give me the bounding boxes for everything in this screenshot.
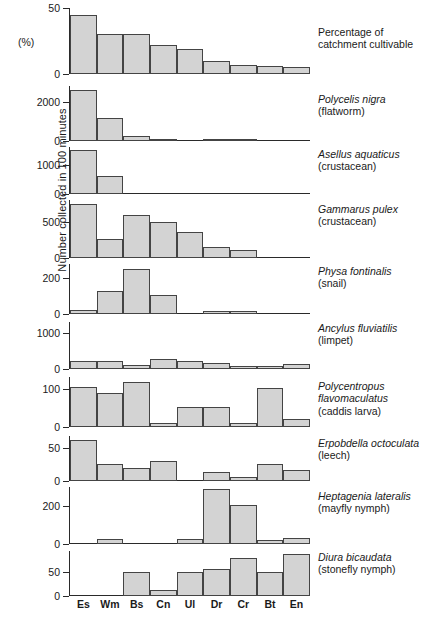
y-axis-tick-label: 0 [10,69,60,80]
bar-slot-Bs [123,365,150,369]
bar-Bt [257,66,284,74]
multi-panel-bar-chart-figure: Number collected in 100 minutes 05002000… [0,0,434,619]
bar-Dr [203,569,230,596]
bar-slot-Ul [177,407,204,427]
bar-Wm [97,34,124,74]
bar-slot-Es [70,15,97,74]
y-axis-tick-mark [63,572,69,573]
caption-scientific-name: Diura bicaudata [318,551,434,563]
bar-Es [70,90,97,141]
bar-slot-Cn [150,222,177,258]
panel-caption-1: Polycelis nigra(flatworm) [318,93,434,118]
bar-slot-Bs [123,382,150,427]
percent-unit-label: (%) [18,36,34,48]
bar-Bt [257,388,284,427]
bar-group [70,264,310,314]
y-axis-tick-mark [63,222,69,223]
bar-Cn [150,295,177,314]
bar-slot-Cr [230,311,257,314]
bar-Wm [97,118,124,141]
y-axis-tick-label: 500 [10,217,60,228]
caption-scientific-name: Polycelis nigra [318,93,434,105]
bar-slot-Es [70,387,97,427]
caption-common-name: (mayfly nymph) [318,502,434,514]
bar-Dr [203,472,230,481]
caption-scientific-name: Erpobdella octoculata [318,437,434,449]
bar-Cr [230,505,257,544]
bar-slot-En [283,67,310,74]
y-axis-tick-label: 1000 [10,328,60,339]
bar-Ul [177,539,204,544]
y-axis-tick-mark [63,333,69,334]
y-axis-tick-mark [63,544,69,545]
caption-scientific-name: Gammarus pulex [318,203,434,215]
bar-Wm [97,176,124,194]
bar-slot-Wm [97,393,124,427]
bar-group [70,377,310,427]
bar-slot-Es [70,361,97,369]
caption-scientific-name: Physa fontinalis [318,265,434,277]
y-axis-tick-mark [63,389,69,390]
bar-slot-Bs [123,215,150,259]
panel-caption-6: Polycentropusflavomaculatus(caddis larva… [318,380,434,417]
y-axis-tick-mark [63,369,69,370]
bar-Wm [97,361,124,369]
y-axis-tick-label: 0 [10,364,60,375]
bar-En [283,67,310,74]
bar-slot-Cr [230,65,257,74]
bar-Wm [97,239,124,258]
x-axis-label-Bs: Bs [123,598,150,610]
bar-Dr [203,61,230,74]
y-axis-tick-label: 0 [10,476,60,487]
caption-common-name: (snail) [318,277,434,289]
bar-Dr [203,311,230,314]
bar-Es [70,310,97,314]
bar-group [70,322,310,369]
bar-Cn [150,359,177,369]
bar-Cn [150,461,177,482]
y-axis-tick-mark [63,481,69,482]
bar-slot-Dr [203,472,230,481]
bar-slot-Cr [230,505,257,544]
bar-Ul [177,572,204,596]
y-axis-tick-label: 0 [10,136,60,147]
caption-common-name: (crustacean) [318,160,434,172]
y-axis-tick-label: 2000 [10,96,60,107]
bar-slot-En [283,554,310,596]
bar-group [70,436,310,481]
bar-Dr [203,489,230,544]
bar-Bs [123,34,150,74]
bar-slot-Bs [123,136,150,141]
y-axis-tick-mark [63,427,69,428]
bar-slot-Ul [177,572,204,596]
bar-group [70,86,310,141]
bar-slot-Es [70,150,97,194]
bar-Cn [150,139,177,141]
bar-slot-Wm [97,34,124,74]
bar-En [283,470,310,481]
bar-En [283,554,310,596]
bar-slot-Dr [203,139,230,141]
bar-slot-Ul [177,539,204,544]
x-axis-label-Bt: Bt [257,598,284,610]
bar-slot-Bt [257,388,284,427]
bar-Ul [177,361,204,369]
caption-scientific-name: Asellus aquaticus [318,148,434,160]
panel-caption-2: Asellus aquaticus(crustacean) [318,148,434,173]
panel-caption-7: Erpobdella octoculata(leech) [318,437,434,462]
bar-Bt [257,572,284,596]
bar-Cn [150,45,177,74]
bar-slot-Es [70,90,97,141]
bar-slot-Es [70,310,97,314]
bar-slot-Es [70,440,97,481]
bar-Dr [203,407,230,427]
bar-slot-Cn [150,139,177,141]
bar-Dr [203,139,230,141]
bar-Cr [230,477,257,481]
bar-Cr [230,423,257,427]
y-axis-tick-label: 0 [10,253,60,264]
y-axis-tick-mark [63,448,69,449]
y-axis-tick-mark [63,102,69,103]
bar-slot-Dr [203,363,230,369]
bar-slot-Wm [97,464,124,481]
